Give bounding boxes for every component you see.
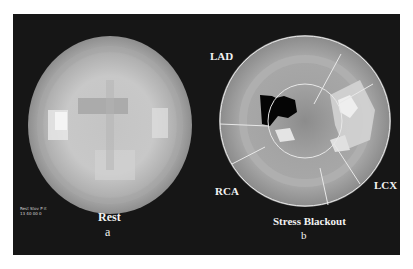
info-line-2: 13 40 00 0 — [20, 211, 47, 216]
panel-b-label: b — [301, 229, 307, 241]
stress-blackout-label: Stress Blackout — [273, 215, 346, 227]
rca-label: RCA — [215, 185, 239, 197]
lad-label: LAD — [210, 50, 233, 62]
rest-label: Rest — [98, 210, 121, 225]
rest-polar-map — [0, 0, 413, 269]
lcx-label: LCX — [374, 179, 397, 191]
acquisition-info: Rest Stov P it 13 40 00 0 — [20, 206, 47, 216]
panel-a-label: a — [105, 225, 110, 240]
